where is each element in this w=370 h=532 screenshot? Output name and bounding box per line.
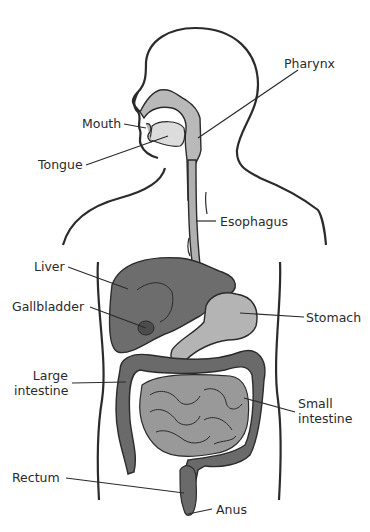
small-intestine-leader [244, 398, 295, 412]
label-anus: Anus [216, 502, 247, 517]
label-pharynx: Pharynx [284, 56, 335, 71]
label-small-intestine-line2: intestine [298, 411, 353, 426]
label-tongue: Tongue [38, 157, 83, 172]
label-rectum: Rectum [12, 470, 60, 485]
label-liver: Liver [34, 259, 65, 274]
mouth-leader [124, 124, 146, 128]
rectum-shape [180, 466, 197, 515]
label-large-intestine-line1: Large [14, 368, 68, 383]
label-esophagus: Esophagus [220, 214, 288, 229]
tongue-leader [86, 136, 168, 165]
label-gallbladder: Gallbladder [12, 299, 84, 314]
torso-left [98, 262, 104, 500]
neck-left [63, 168, 165, 245]
rectum-leader [66, 478, 184, 493]
pharynx-leader [198, 70, 298, 138]
small-intestine-shape [140, 375, 249, 457]
label-stomach: Stomach [306, 310, 361, 325]
torso-right [276, 262, 281, 500]
tongue-shape [150, 122, 185, 147]
label-mouth: Mouth [82, 116, 121, 131]
label-large-intestine-line2: intestine [14, 383, 68, 398]
label-small-intestine-line1: Small [298, 396, 333, 411]
